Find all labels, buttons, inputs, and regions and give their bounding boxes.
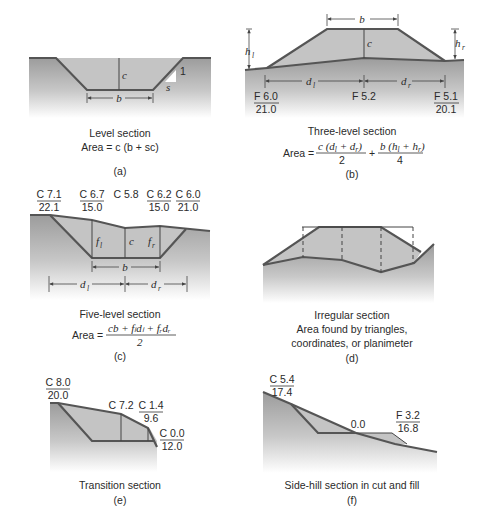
label-h-left-sub: l [252, 51, 254, 60]
station-4-top: C 6.2 [146, 188, 171, 200]
caption: Transition section [79, 479, 161, 491]
caption: Five-level section [79, 308, 160, 320]
panel-c-five-level-section: f l c f r b d l d r C 7.1 22.1 C 6.7 15.… [30, 188, 210, 362]
formula-plus: + [369, 147, 375, 159]
panel-b-three-level-section: c b h l h r d l d r F 6.0 21.0 F 5.2 F 5… [245, 13, 465, 180]
label-b: b [359, 13, 365, 25]
panel-tag: (d) [346, 352, 359, 364]
label-one: 1 [180, 65, 186, 77]
station-right-bottom: 20.1 [436, 103, 457, 115]
label-d-right-sub: r [408, 81, 411, 90]
label-h-right: h [455, 37, 461, 49]
panel-tag: (b) [346, 168, 359, 180]
caption: Three-level section [308, 125, 397, 137]
label-h-left: h [245, 45, 251, 57]
label-b: b [116, 92, 122, 104]
term1-numerator: c (dl + dr) [318, 140, 362, 154]
label-d-left-sub: l [313, 81, 315, 90]
station-right-bottom: 16.8 [398, 422, 419, 434]
station-4-bottom: 12.0 [162, 440, 183, 452]
station-right-top: F 5.1 [434, 90, 458, 102]
formula-prefix: Area = [283, 147, 314, 159]
station-5-bottom: 21.0 [178, 201, 199, 213]
label-d-right: d [151, 278, 157, 290]
station-3-top: C 1.4 [138, 399, 163, 411]
station-left-bottom: 17.4 [272, 386, 293, 398]
station-3-bottom: 9.6 [144, 412, 159, 424]
caption: Level section [89, 127, 150, 139]
term2-denominator: 4 [397, 154, 403, 166]
panel-d-irregular-section: Irregular section Area found by triangle… [263, 227, 434, 364]
panel-e-transition-section: C 8.0 20.0 C 7.2 C 1.4 9.6 C 0.0 12.0 Tr… [45, 376, 184, 506]
panel-f-side-hill-section: C 5.4 17.4 0.0 F 3.2 16.8 Side-hill sect… [263, 373, 437, 506]
station-1-bottom: 20.0 [48, 389, 69, 401]
panel-tag: (c) [114, 350, 126, 362]
label-b: b [122, 261, 128, 273]
station-1-top: C 7.1 [36, 188, 61, 200]
station-4-bottom: 15.0 [149, 201, 170, 213]
station-2-top: C 7.2 [108, 399, 133, 411]
label-h-right-sub: r [462, 43, 465, 52]
label-d-left: d [306, 75, 312, 87]
earthwork-cross-sections-figure: c 1 s b Level section Area = c (b + sc) … [0, 0, 483, 530]
station-1-top: C 8.0 [45, 376, 70, 388]
formula-prefix: Area = [72, 329, 103, 341]
caption-line-3: coordinates, or planimeter [291, 337, 413, 349]
label-c: c [122, 69, 127, 81]
area-formula: Area = c (b + sc) [81, 141, 159, 153]
station-right-top: F 3.2 [396, 409, 420, 421]
label-d-right-sub: r [158, 284, 161, 293]
area-formula: Area = c (dl + dr) 2 + b (hl + hr) 4 [283, 140, 425, 166]
label-d-left-sub: l [87, 284, 89, 293]
caption: Irregular section [314, 309, 389, 321]
station-3-top: C 5.8 [113, 188, 138, 200]
formula-denominator: 2 [137, 336, 143, 348]
caption: Side-hill section in cut and fill [285, 479, 420, 491]
station-center-top: 0.0 [351, 418, 366, 430]
term1-denominator: 2 [339, 154, 345, 166]
label-c: c [367, 37, 372, 49]
station-4-top: C 0.0 [159, 427, 184, 439]
station-1-bottom: 22.1 [39, 201, 60, 213]
panel-tag: (a) [114, 165, 127, 177]
caption-line-2: Area found by triangles, [297, 323, 408, 335]
label-f-right-sub: r [152, 241, 155, 250]
station-left-top: F 6.0 [254, 90, 278, 102]
station-2-bottom: 15.0 [82, 201, 103, 213]
term2-numerator: b (hl + hr) [380, 140, 425, 154]
panel-tag: (f) [347, 494, 357, 506]
formula-numerator: cb + fₗdₗ + fᵣdᵣ [108, 322, 171, 334]
station-2-top: C 6.7 [79, 188, 104, 200]
label-d-right: d [401, 75, 407, 87]
panel-a-level-section: c 1 s b Level section Area = c (b + sc) … [29, 58, 211, 177]
station-left-top: C 5.4 [269, 373, 294, 385]
station-left-bottom: 21.0 [256, 103, 277, 115]
label-s: s [166, 81, 170, 93]
label-d-left: d [80, 278, 86, 290]
label-f-left-sub: l [100, 241, 102, 250]
station-center-top: F 5.2 [352, 90, 376, 102]
label-c: c [129, 235, 134, 247]
panel-tag: (e) [114, 494, 127, 506]
station-5-top: C 6.0 [175, 188, 200, 200]
